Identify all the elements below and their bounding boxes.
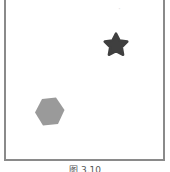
shape-canvas (0, 0, 170, 172)
star-icon (105, 34, 128, 55)
figure-caption: 图 3.10 (0, 165, 170, 172)
hexagon-icon (35, 98, 65, 126)
